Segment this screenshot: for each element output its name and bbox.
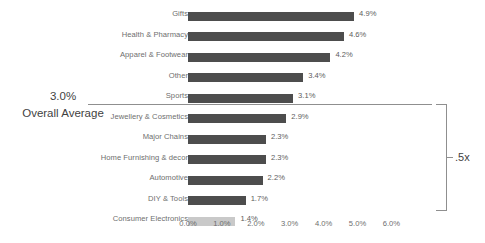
category-label: Apparel & Footwear [18,50,188,60]
below-average-bracket [436,104,447,211]
bar-value-label: 1.7% [251,194,268,204]
bar-value-label: 2.3% [271,153,288,163]
horizontal-bar-chart: Gifts4.9%Health & Pharmacy4.6%Apparel & … [0,0,485,243]
category-label: DIY & Tools [18,194,188,204]
category-label: Consumer Electronics [18,214,188,224]
bar [188,73,303,82]
bar-row: DIY & Tools1.7% [0,191,485,212]
overall-average-value: 3.0% [24,90,102,102]
bar-value-label: 3.4% [308,71,325,81]
category-label: Major Chains [18,132,188,142]
overall-average-caption: Overall Average [3,107,123,119]
bar-value-label: 4.6% [349,30,366,40]
bar-row: Apparel & Footwear4.2% [0,47,485,68]
bar [188,32,344,41]
bar-row: Gifts4.9% [0,6,485,27]
bar-value-label: 3.1% [298,91,315,101]
bar [188,94,293,103]
bar [188,135,266,144]
bar-row: Major Chains2.3% [0,129,485,150]
bar-row: Other3.4% [0,68,485,89]
bar [188,176,263,185]
category-label: Home Furnishing & decor [18,153,188,163]
bar-row: Automotive2.2% [0,170,485,191]
bar-value-label: 4.2% [335,50,352,60]
bar [188,114,286,123]
bar-value-label: 2.2% [268,173,285,183]
x-tick-label: 6.0% [368,219,414,229]
bar-value-label: 4.9% [359,9,376,19]
bar-value-label: 2.3% [271,132,288,142]
category-label: Health & Pharmacy [18,30,188,40]
bar-row: Home Furnishing & decor2.3% [0,150,485,171]
bar [188,12,354,21]
bar [188,155,266,164]
category-label: Gifts [18,9,188,19]
category-label: Other [18,71,188,81]
bar-row: Health & Pharmacy4.6% [0,27,485,48]
bar-value-label: 2.9% [291,112,308,122]
bar [188,53,330,62]
bracket-label: .5x [455,151,470,163]
bracket-tick-mark [447,157,453,158]
overall-average-rule [88,104,432,105]
category-label: Automotive [18,173,188,183]
bar [188,196,246,205]
